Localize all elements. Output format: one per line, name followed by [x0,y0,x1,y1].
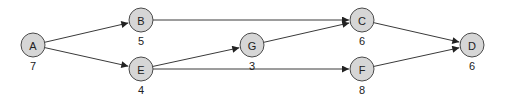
node-label: C [358,15,366,27]
edge-g-c [264,23,350,42]
node-d: D6 [460,33,484,72]
node-weight: 3 [249,60,255,72]
node-weight: 8 [359,84,365,96]
node-label: D [468,40,476,52]
nodes-layer: A7B5E4G3C6F8D6 [21,8,484,96]
node-weight: 4 [138,84,144,96]
edge-e-g [153,48,240,67]
edge-f-d [374,48,460,67]
node-label: B [137,15,144,27]
node-c: C6 [350,8,374,47]
graph-diagram: A7B5E4G3C6F8D6 [0,0,506,98]
node-weight: 5 [138,35,144,47]
node-label: E [137,64,144,76]
node-weight: 6 [469,60,475,72]
edge-a-b [45,23,129,42]
edge-a-e [45,48,129,67]
node-g: G3 [240,33,264,72]
edge-c-d [374,23,460,42]
node-f: F8 [350,57,374,96]
node-label: F [359,64,366,76]
node-label: A [29,40,37,52]
node-b: B5 [129,8,153,47]
node-a: A7 [21,33,45,72]
node-weight: 6 [359,35,365,47]
node-e: E4 [129,57,153,96]
node-weight: 7 [30,60,36,72]
node-label: G [248,40,257,52]
